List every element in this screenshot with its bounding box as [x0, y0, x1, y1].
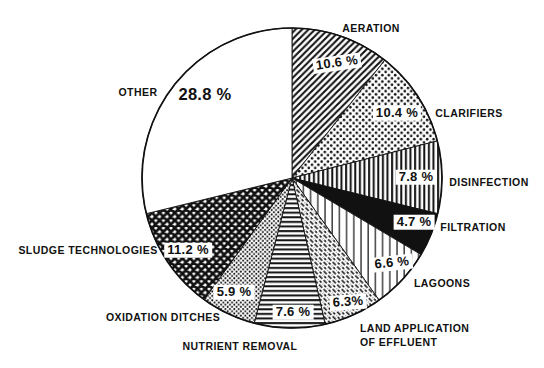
pie-chart	[0, 0, 544, 368]
pie-chart-figure: AERATION10.6 %CLARIFIERS10.4 %DISINFECTI…	[0, 0, 544, 368]
